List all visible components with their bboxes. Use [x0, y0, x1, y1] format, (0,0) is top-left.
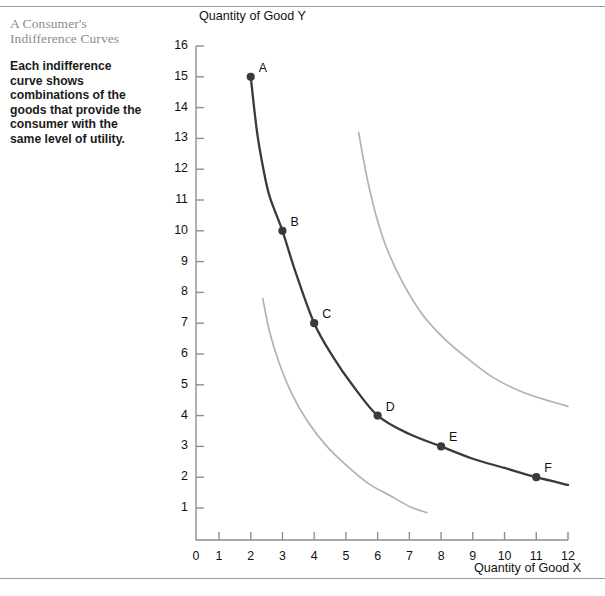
data-point-label-b: B — [290, 215, 298, 229]
data-point-label-f: F — [544, 461, 552, 475]
y-tick-label-3: 3 — [166, 438, 188, 452]
curves — [251, 77, 568, 513]
y-tick-label-14: 14 — [166, 100, 188, 114]
y-tick-label-6: 6 — [166, 346, 188, 360]
data-point-label-e: E — [449, 430, 457, 444]
y-tick-label-10: 10 — [166, 223, 188, 237]
data-point-c — [310, 319, 318, 327]
x-tick-label-9: 9 — [465, 549, 481, 563]
indifference-curves-plot — [0, 0, 605, 596]
indifference-curve-upper — [359, 132, 568, 406]
x-tick-label-3: 3 — [274, 549, 290, 563]
y-tick-label-2: 2 — [166, 469, 188, 483]
axes — [196, 46, 568, 540]
data-point-b — [278, 227, 286, 235]
y-tick-label-7: 7 — [166, 315, 188, 329]
y-tick-label-9: 9 — [166, 254, 188, 268]
chart-area: Quantity of Good Y Quantity of Good X 12… — [0, 0, 605, 596]
x-tick-label-6: 6 — [370, 549, 386, 563]
y-tick-label-5: 5 — [166, 377, 188, 391]
y-tick-label-8: 8 — [166, 284, 188, 298]
x-tick-label-10: 10 — [497, 549, 513, 563]
y-tick-label-15: 15 — [166, 69, 188, 83]
y-tick-label-12: 12 — [166, 161, 188, 175]
data-points — [247, 73, 541, 482]
y-tick-label-4: 4 — [166, 408, 188, 422]
x-tick-label-11: 11 — [528, 549, 544, 563]
data-point-label-d: D — [386, 400, 395, 414]
data-point-f — [532, 473, 540, 481]
y-tick-label-13: 13 — [166, 130, 188, 144]
x-tick-label-1: 1 — [211, 549, 227, 563]
data-point-label-c: C — [322, 307, 331, 321]
x-tick-label-2: 2 — [243, 549, 259, 563]
y-tick-label-16: 16 — [166, 38, 188, 52]
data-point-d — [374, 412, 382, 420]
x-tick-label-5: 5 — [338, 549, 354, 563]
x-tick-label-4: 4 — [306, 549, 322, 563]
y-tick-label-11: 11 — [166, 192, 188, 206]
x-tick-label-8: 8 — [433, 549, 449, 563]
y-tick-label-1: 1 — [166, 500, 188, 514]
data-point-a — [247, 73, 255, 81]
data-point-e — [437, 442, 445, 450]
indifference-curve-lower — [263, 299, 427, 513]
x-tick-label-0: 0 — [188, 549, 204, 563]
indifference-curve-middle — [251, 77, 568, 485]
x-tick-label-12: 12 — [560, 549, 576, 563]
data-point-label-a: A — [259, 61, 267, 75]
x-tick-label-7: 7 — [401, 549, 417, 563]
